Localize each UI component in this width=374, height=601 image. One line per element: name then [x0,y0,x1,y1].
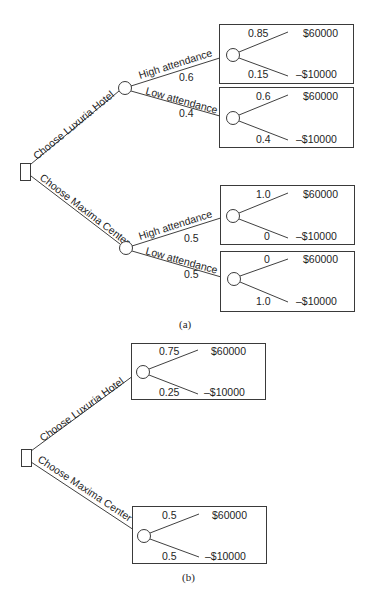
outcome-box-maxima-b: 0.5 0.5 $60000 –$10000 [133,507,267,564]
outcome-box-maxima-high: 1.0 0 $60000 –$10000 [221,186,355,245]
decision-node-b [22,450,32,467]
payoff-win: $60000 [211,345,246,357]
prob-win: 0.85 [248,27,269,39]
payoff-lose: –$10000 [296,68,337,80]
prob-lose: 0 [264,230,270,242]
prob-win: 0.6 [256,90,271,102]
outcome-box-maxima-low: 0 1.0 $60000 –$10000 [221,252,355,312]
figure-a: Choose Luxuria Hotel Choose Maxima Cente… [21,25,355,332]
decision-tree-figure: Choose Luxuria Hotel Choose Maxima Cente… [0,0,374,601]
payoff-win: $60000 [303,188,338,200]
label-choose-maxima-a: Choose Maxima Center [38,171,133,248]
prob-lose: 0.25 [159,386,180,398]
payoff-win: $60000 [303,90,338,102]
chance-node-maxima-a [120,242,133,255]
prob-luxuria-high: 0.6 [179,71,194,83]
outcome-box-luxuria-high: 0.85 0.15 $60000 –$10000 [220,25,354,84]
prob-luxuria-low: 0.4 [179,107,194,119]
prob-lose: 0.15 [248,68,269,80]
label-maxima-high: High attendance [137,207,214,241]
prob-win: 1.0 [256,188,271,200]
prob-lose: 0.4 [256,133,271,145]
figure-b: Choose Luxuria Hotel Choose Maxima Cente… [22,344,267,585]
prob-maxima-high: 0.5 [184,232,199,244]
payoff-lose: –$10000 [205,550,246,562]
branch-maxima-b [31,462,137,532]
prob-win: 0.5 [162,509,177,521]
label-choose-luxuria-b: Choose Luxuria Hotel [37,375,126,444]
label-choose-luxuria-a: Choose Luxuria Hotel [31,88,117,161]
payoff-lose: –$10000 [296,133,337,145]
prob-lose: 1.0 [256,295,271,307]
chance-node-luxuria-a [119,82,132,95]
payoff-lose: –$10000 [296,230,337,242]
payoff-win: $60000 [212,509,247,521]
prob-maxima-low: 0.5 [184,268,199,280]
caption-a: (a) [179,318,192,331]
prob-win: 0.75 [159,345,180,357]
decision-node-a [21,164,31,181]
payoff-lose: –$10000 [204,386,245,398]
branch-maxima-a [31,176,120,244]
payoff-win: $60000 [303,253,338,265]
label-choose-maxima-b: Choose Maxima Center [36,453,135,524]
prob-lose: 0.5 [162,550,177,562]
outcome-box-luxuria-low: 0.6 0.4 $60000 –$10000 [220,88,354,148]
prob-win: 0 [264,253,270,265]
payoff-lose: –$10000 [296,295,337,307]
label-maxima-low: Low attendance [144,244,219,275]
payoff-win: $60000 [303,27,338,39]
caption-b: (b) [182,571,195,584]
outcome-box-luxuria-b: 0.75 0.25 $60000 –$10000 [132,344,266,400]
